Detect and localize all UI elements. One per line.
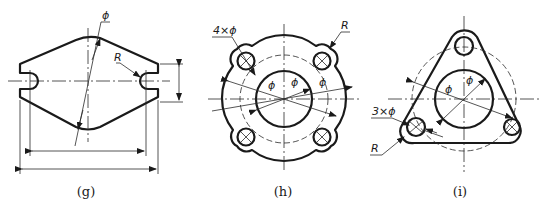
dimension-bore <box>256 89 310 110</box>
flange-outline-i <box>400 30 520 143</box>
caption-g: (g) <box>77 184 95 199</box>
caption-h: (h) <box>274 184 293 199</box>
part-outline-g <box>20 37 158 130</box>
dia-inner-label-h: ϕ <box>268 79 275 92</box>
radius-leader-i <box>382 137 404 155</box>
figure-g: ϕ R (g) <box>8 9 183 199</box>
figure-h: ϕ ϕ ϕ 4×ϕ R (h) <box>208 19 362 199</box>
radius-leader-g <box>120 63 140 77</box>
dia-mid-label-i: ϕ <box>466 74 473 87</box>
dia-mid-label-h: ϕ <box>291 76 298 89</box>
radius-label-h: R <box>341 19 349 32</box>
holes-label-i: 3×ϕ <box>372 105 395 118</box>
caption-i: (i) <box>453 184 467 199</box>
drawing-canvas: ϕ R (g) ϕ ϕ ϕ <box>0 0 546 210</box>
radius-label-g: R <box>114 51 122 64</box>
figure-i: ϕ ϕ 3×ϕ R (i) <box>370 16 540 199</box>
radius-leader-h <box>330 32 341 48</box>
holes-label-h: 4×ϕ <box>213 24 236 37</box>
dia-inner-label-i: ϕ <box>445 83 452 96</box>
dia-outer-label-h: ϕ <box>319 76 326 89</box>
diameter-label-g: ϕ <box>102 9 109 22</box>
radius-label-i: R <box>371 142 379 155</box>
